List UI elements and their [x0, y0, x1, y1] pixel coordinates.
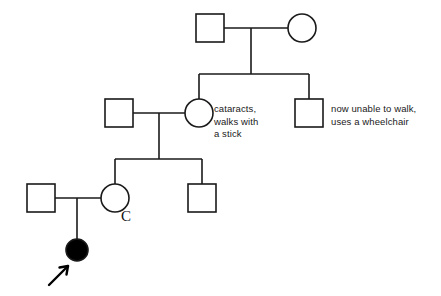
generation-4-group	[66, 239, 88, 261]
generation-1-group	[196, 14, 316, 74]
proband-arrow-group	[49, 266, 68, 285]
annotation-cataracts-note: cataracts, walks with a stick	[214, 103, 258, 141]
annotation-wheelchair-note: now unable to walk, uses a wheelchair	[331, 103, 416, 128]
individual-III-1-male-square[interactable]	[27, 184, 55, 212]
individual-II-2-female-circle[interactable]	[185, 99, 213, 127]
individual-III-3-male-square[interactable]	[188, 184, 216, 212]
individual-II-3-male-square[interactable]	[295, 99, 323, 127]
individual-I-1-male-square[interactable]	[196, 14, 224, 42]
pedigree-chart: cataracts, walks with a stick now unable…	[0, 0, 441, 296]
pedigree-diagram-canvas	[0, 0, 441, 296]
individual-I-2-female-circle[interactable]	[288, 14, 316, 42]
generation-3-sibship-group	[115, 159, 202, 184]
proband-arrow-shaft	[49, 266, 68, 285]
generation-2-sibship-group	[199, 74, 309, 99]
individual-IV-1-female-circle-affected[interactable]	[66, 239, 88, 261]
annotation-carrier-mark: C	[121, 208, 131, 225]
individual-II-1-male-square[interactable]	[105, 99, 133, 127]
